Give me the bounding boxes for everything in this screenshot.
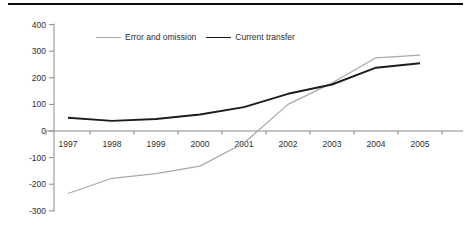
y-axis-tick-label: -300 — [29, 206, 46, 216]
x-axis-tick-label: 2003 — [323, 139, 342, 149]
x-axis-tick-label: 2000 — [191, 139, 210, 149]
y-axis-tick-label: 400 — [32, 20, 46, 30]
x-axis-tick-label: 1997 — [59, 139, 78, 149]
y-axis-tick-label: 100 — [32, 99, 46, 109]
series-line-error-and-omission — [68, 55, 420, 193]
y-axis-tick-label: -200 — [29, 179, 46, 189]
x-axis-tick-label: 2002 — [279, 139, 298, 149]
x-axis-tick-label: 1998 — [103, 139, 122, 149]
y-axis-tick-label: -100 — [29, 153, 46, 163]
x-axis-tick-label: 2001 — [235, 139, 254, 149]
x-axis-tick-label: 1999 — [147, 139, 166, 149]
x-axis-tick-label: 2004 — [367, 139, 386, 149]
y-axis-tick-label: 200 — [32, 73, 46, 83]
x-axis-tick-label: 2005 — [411, 139, 430, 149]
chart-figure: Error and omission Current transfer 4003… — [0, 0, 466, 240]
series-line-current-transfer — [68, 63, 420, 121]
line-chart: 4003002001000-100-200-300199719981999200… — [0, 0, 466, 240]
y-axis-tick-label: 300 — [32, 46, 46, 56]
